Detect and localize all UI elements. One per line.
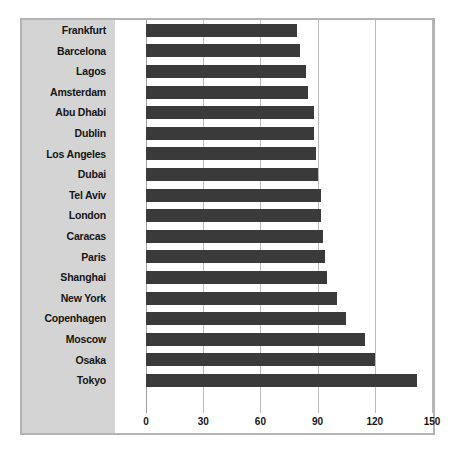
category-label: Osaka — [75, 355, 106, 366]
category-label-row: Dubai — [22, 164, 115, 185]
category-label-row: New York — [22, 288, 115, 309]
category-label-row: Frankfurt — [22, 20, 115, 41]
category-label-row: Abu Dhabi — [22, 102, 115, 123]
bar — [146, 65, 306, 78]
category-label-row: Moscow — [22, 329, 115, 350]
bar-row — [115, 20, 433, 41]
category-label: Copenhagen — [44, 313, 106, 324]
category-label: Los Angeles — [46, 149, 106, 160]
category-label: Tel Aviv — [69, 190, 106, 201]
bar — [146, 230, 323, 243]
bar — [146, 106, 314, 119]
category-label-row: Los Angeles — [22, 144, 115, 165]
x-tick-label: 30 — [198, 416, 209, 427]
bar-row — [115, 288, 433, 309]
x-tick-label: 0 — [143, 416, 149, 427]
category-label: London — [69, 210, 106, 221]
bar — [146, 353, 375, 366]
category-label: Frankfurt — [62, 25, 106, 36]
bar-row — [115, 329, 433, 350]
category-label: Dubai — [78, 169, 106, 180]
category-label-row: Tokyo — [22, 370, 115, 391]
bar — [146, 292, 337, 305]
category-label-row: Tel Aviv — [22, 185, 115, 206]
bar — [146, 147, 316, 160]
bar-row — [115, 82, 433, 103]
category-label-list: FrankfurtBarcelonaLagosAmsterdamAbu Dhab… — [22, 20, 115, 391]
bar — [146, 250, 325, 263]
bar-row — [115, 205, 433, 226]
category-label: Abu Dhabi — [55, 107, 106, 118]
bar-row — [115, 164, 433, 185]
category-label: Dublin — [75, 128, 106, 139]
bar — [146, 44, 300, 57]
x-tick-label: 150 — [424, 416, 441, 427]
bar — [146, 209, 321, 222]
x-tick-label: 90 — [312, 416, 323, 427]
bar — [146, 127, 314, 140]
bar-row — [115, 144, 433, 165]
category-label: Paris — [81, 252, 106, 263]
bar-row — [115, 61, 433, 82]
bar-row — [115, 185, 433, 206]
category-label: Amsterdam — [50, 87, 106, 98]
bar — [146, 312, 346, 325]
chart-frame: FrankfurtBarcelonaLagosAmsterdamAbu Dhab… — [20, 18, 435, 435]
bar-row — [115, 123, 433, 144]
x-tick-label: 60 — [255, 416, 266, 427]
category-label: Moscow — [66, 334, 106, 345]
category-label-row: Barcelona — [22, 41, 115, 62]
category-label-panel: FrankfurtBarcelonaLagosAmsterdamAbu Dhab… — [22, 20, 115, 433]
bar — [146, 24, 297, 37]
category-label-row: Paris — [22, 247, 115, 268]
category-label: Shanghai — [60, 272, 106, 283]
bar — [146, 333, 365, 346]
bar-row — [115, 370, 433, 391]
bar-row — [115, 308, 433, 329]
category-label: Barcelona — [57, 46, 106, 57]
category-label-row: Lagos — [22, 61, 115, 82]
category-label-row: Shanghai — [22, 267, 115, 288]
bar — [146, 168, 318, 181]
category-label: Caracas — [67, 231, 106, 242]
bar — [146, 271, 327, 284]
category-label-row: Caracas — [22, 226, 115, 247]
category-label-row: Copenhagen — [22, 308, 115, 329]
bar-row — [115, 247, 433, 268]
x-tick-label: 120 — [366, 416, 383, 427]
bar — [146, 189, 321, 202]
x-axis-tick-labels: 0306090120150 — [115, 416, 433, 433]
bar — [146, 86, 308, 99]
bar — [146, 374, 417, 387]
plot-area — [115, 20, 433, 433]
category-label: New York — [61, 293, 106, 304]
category-label-row: London — [22, 205, 115, 226]
bar-row — [115, 267, 433, 288]
bar-chart: FrankfurtBarcelonaLagosAmsterdamAbu Dhab… — [0, 0, 457, 460]
bar-list — [115, 20, 433, 391]
bar-row — [115, 102, 433, 123]
category-label-row: Dublin — [22, 123, 115, 144]
bar-row — [115, 41, 433, 62]
bar-row — [115, 350, 433, 371]
category-label-row: Osaka — [22, 350, 115, 371]
category-label-row: Amsterdam — [22, 82, 115, 103]
category-label: Lagos — [76, 66, 106, 77]
bar-row — [115, 226, 433, 247]
category-label: Tokyo — [77, 375, 106, 386]
